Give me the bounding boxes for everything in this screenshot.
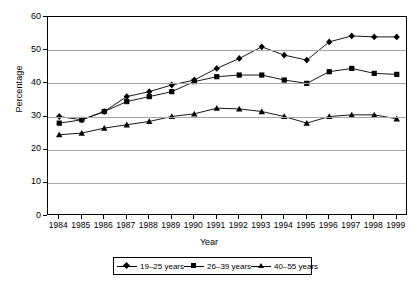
data-point-square	[124, 99, 129, 104]
data-point-diamond	[304, 57, 310, 64]
y-tick-label: 20	[31, 144, 41, 153]
x-tick-label: 1997	[340, 221, 362, 230]
gridline	[48, 150, 406, 151]
y-tick-label: 60	[31, 12, 41, 21]
x-tick-label: 1987	[115, 221, 137, 230]
legend-diamond-icon	[117, 262, 137, 270]
x-tick-label: 1985	[70, 221, 92, 230]
data-point-square	[79, 117, 84, 122]
data-point-square	[169, 89, 174, 94]
data-point-diamond	[371, 34, 377, 41]
x-tick-label: 1989	[160, 221, 182, 230]
gridline	[48, 50, 406, 51]
data-point-square	[327, 69, 332, 74]
x-tick-label: 1995	[295, 221, 317, 230]
legend-label: 40–55 years	[274, 262, 318, 271]
data-point-square	[237, 72, 242, 77]
series-line	[59, 108, 397, 135]
x-tick-label: 1988	[137, 221, 159, 230]
legend-triangle-icon	[251, 262, 271, 270]
series-line	[59, 36, 397, 120]
x-tick-label: 1990	[182, 221, 204, 230]
plot-area	[47, 16, 407, 215]
y-tick-label: 0	[36, 211, 41, 220]
x-tick-label: 1992	[227, 221, 249, 230]
data-point-square	[394, 72, 399, 77]
line-chart: Percentage 0102030405060 198419851986198…	[0, 0, 418, 287]
data-point-diamond	[281, 52, 287, 59]
x-tick-label: 1993	[250, 221, 272, 230]
data-point-square	[214, 74, 219, 79]
data-point-square	[102, 109, 107, 114]
x-tick-label: 1998	[362, 221, 384, 230]
legend-label: 26–39 years	[207, 262, 251, 271]
x-tick-label: 1984	[47, 221, 69, 230]
legend-item[interactable]: 19–25 years	[117, 262, 184, 271]
chart-legend: 19–25 years26–39 years40–55 years	[113, 257, 312, 275]
legend-item[interactable]: 40–55 years	[251, 262, 318, 271]
x-tick-label: 1994	[272, 221, 294, 230]
y-tick-mark	[43, 215, 47, 216]
data-point-square	[282, 77, 287, 82]
gridline	[48, 117, 406, 118]
data-point-diamond	[214, 65, 220, 72]
y-tick-label: 10	[31, 177, 41, 186]
legend-square-icon	[184, 262, 204, 270]
x-tick-label: 1999	[385, 221, 407, 230]
data-point-diamond	[236, 55, 242, 62]
data-point-diamond	[326, 38, 332, 45]
y-tick-label: 40	[31, 78, 41, 87]
gridline	[48, 83, 406, 84]
data-point-square	[147, 94, 152, 99]
x-tick-label: 1996	[317, 221, 339, 230]
y-tick-label: 30	[31, 111, 41, 120]
data-point-square	[372, 71, 377, 76]
x-tick-label: 1991	[205, 221, 227, 230]
data-point-diamond	[394, 34, 400, 41]
x-tick-label: 1986	[92, 221, 114, 230]
y-tick-label: 50	[31, 45, 41, 54]
data-point-diamond	[349, 33, 355, 40]
data-point-square	[349, 66, 354, 71]
y-axis-tick-labels: 0102030405060	[0, 0, 47, 231]
data-point-square	[259, 72, 264, 77]
gridline	[48, 183, 406, 184]
legend-item[interactable]: 26–39 years	[184, 262, 251, 271]
data-point-square	[57, 121, 62, 126]
x-axis-title: Year	[0, 237, 418, 247]
legend-label: 19–25 years	[140, 262, 184, 271]
